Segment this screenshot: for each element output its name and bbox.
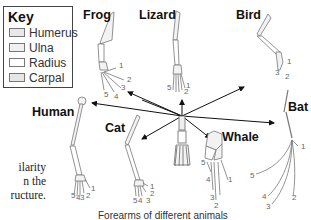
radius-swatch <box>9 58 25 67</box>
frog-limb: 1 2 3 4 5 <box>98 12 132 101</box>
svg-text:4: 4 <box>76 193 81 202</box>
figure-caption: Forearms of different animals <box>98 210 228 220</box>
svg-text:2: 2 <box>150 189 155 198</box>
label-lizard: Lizard <box>139 8 176 22</box>
label-bird: Bird <box>236 8 261 22</box>
svg-text:2: 2 <box>184 87 189 96</box>
svg-text:2: 2 <box>214 201 219 210</box>
svg-text:4: 4 <box>114 92 119 101</box>
svg-text:2: 2 <box>127 75 132 84</box>
key-title: Key <box>8 9 34 25</box>
label-whale: Whale <box>222 130 259 144</box>
label-human: Human <box>32 105 74 119</box>
key-item-carpal: Carpal <box>9 71 64 84</box>
svg-text:2: 2 <box>292 193 297 202</box>
cat-limb: 1 2 3 4 5 <box>125 115 155 205</box>
carpal-swatch <box>9 73 25 82</box>
svg-text:2: 2 <box>86 191 91 200</box>
key-item-ulna: Ulna <box>9 41 54 54</box>
ulna-swatch <box>9 43 25 52</box>
svg-text:5: 5 <box>250 171 255 180</box>
svg-text:3: 3 <box>275 68 280 77</box>
label-frog: Frog <box>83 8 111 22</box>
svg-text:5: 5 <box>167 83 172 92</box>
key-item-humerus: Humerus <box>9 26 78 39</box>
humerus-swatch <box>9 28 25 37</box>
side-paragraph: ilarity n the ructure. <box>0 160 46 202</box>
lizard-limb: 5 1 2 <box>167 11 191 96</box>
svg-text:1: 1 <box>301 142 306 151</box>
svg-text:3: 3 <box>121 83 126 92</box>
svg-text:5: 5 <box>104 90 109 99</box>
svg-text:5: 5 <box>201 158 206 167</box>
svg-text:4: 4 <box>206 175 211 184</box>
svg-text:1: 1 <box>228 175 233 184</box>
svg-text:1: 1 <box>287 57 292 66</box>
svg-text:5: 5 <box>133 196 138 205</box>
svg-text:2: 2 <box>285 72 290 81</box>
svg-text:3: 3 <box>146 196 151 205</box>
svg-text:3: 3 <box>80 193 85 202</box>
central-limb <box>174 116 190 166</box>
svg-text:1: 1 <box>119 61 124 70</box>
svg-text:3: 3 <box>266 202 271 211</box>
key-item-radius: Radius <box>9 56 66 69</box>
legend-key: Key Humerus Ulna Radius Carpal <box>3 6 73 88</box>
svg-text:4: 4 <box>138 196 143 205</box>
svg-text:5: 5 <box>71 191 76 200</box>
label-cat: Cat <box>105 121 125 135</box>
svg-text:1: 1 <box>91 184 96 193</box>
svg-text:4: 4 <box>262 192 267 201</box>
bird-limb: 1 3 2 <box>257 14 292 81</box>
label-bat: Bat <box>288 100 308 114</box>
